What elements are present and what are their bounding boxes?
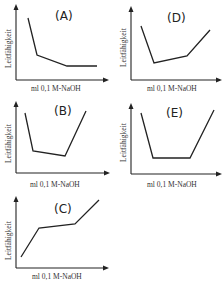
y-axis-arrow-icon	[14, 101, 19, 107]
y-axis-arrow-icon	[14, 4, 19, 10]
x-axis-label: ml 0,1 M-NaOH	[31, 84, 81, 93]
conductivity-titration-figure: (A) ml 0,1 M-NaOH Leitfähigkeit (D) ml 0…	[0, 0, 223, 281]
panel-label: (C)	[54, 202, 72, 216]
panel-d: (D) ml 0,1 M-NaOH Leitfähigkeit	[119, 6, 222, 93]
y-axis-label: Leitfähigkeit	[119, 122, 128, 162]
x-axis-arrow-icon	[103, 266, 109, 271]
panel-e: (E) ml 0,1 M-NaOH Leitfähigkeit	[119, 103, 222, 189]
panel-label: (B)	[54, 104, 72, 118]
panel-b: (B) ml 0,1 M-NaOH Leitfähigkeit	[4, 101, 110, 189]
y-axis-label: Leitfähigkeit	[4, 28, 13, 68]
panel-label: (D)	[167, 11, 186, 25]
x-axis-label: ml 0,1 M-NaOH	[147, 180, 197, 189]
x-axis-arrow-icon	[103, 78, 109, 83]
panel-a: (A) ml 0,1 M-NaOH Leitfähigkeit	[4, 4, 109, 93]
x-axis-arrow-icon	[104, 171, 110, 176]
x-axis-arrow-icon	[216, 78, 222, 83]
y-axis-label: Leitfähigkeit	[119, 27, 128, 67]
conductivity-curve	[28, 18, 97, 66]
y-axis-arrow-icon	[129, 103, 134, 109]
y-axis-label: Leitfähigkeit	[4, 123, 13, 163]
y-axis-arrow-icon	[14, 196, 19, 202]
x-axis-label: ml 0,1 M-NaOH	[30, 180, 80, 189]
panel-c: (C) ml 0,1 M-NaOH Leitfähigkeit	[4, 196, 109, 281]
x-axis-arrow-icon	[216, 172, 222, 177]
y-axis-label: Leitfähigkeit	[4, 220, 13, 260]
panel-label: (A)	[55, 9, 73, 23]
panel-label: (E)	[166, 106, 183, 120]
y-axis-arrow-icon	[129, 6, 134, 12]
x-axis-label: ml 0,1 M-NaOH	[147, 84, 197, 93]
conductivity-curve	[141, 26, 210, 63]
x-axis-label: ml 0,1 M-NaOH	[32, 272, 82, 281]
